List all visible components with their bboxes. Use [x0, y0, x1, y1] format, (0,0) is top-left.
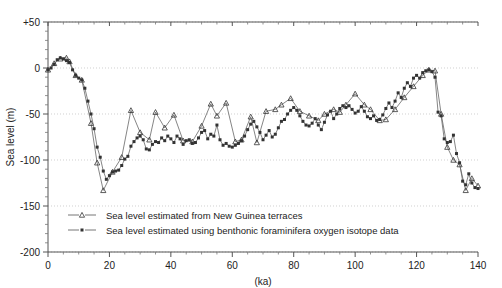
- data-point-square: [387, 101, 390, 104]
- data-point-square: [305, 124, 308, 127]
- data-point-square: [219, 138, 222, 141]
- data-point-square: [308, 124, 311, 127]
- data-point-square: [77, 77, 80, 80]
- data-point-square: [301, 120, 304, 123]
- data-point-square: [391, 106, 394, 109]
- data-point-square: [65, 59, 68, 62]
- data-point-square: [139, 135, 142, 138]
- data-point-square: [96, 146, 99, 149]
- data-point-square: [68, 61, 71, 64]
- data-point-square: [341, 104, 344, 107]
- x-tick-label: 20: [104, 260, 116, 271]
- data-point-square: [289, 109, 292, 112]
- data-point-square: [90, 113, 93, 116]
- y-tick-label: 0: [34, 63, 40, 74]
- data-point-square: [172, 141, 175, 144]
- data-point-square: [203, 129, 206, 132]
- data-point-square: [265, 134, 268, 137]
- data-point-square: [274, 133, 277, 136]
- data-point-square: [148, 148, 151, 151]
- data-point-square: [329, 110, 332, 113]
- data-point-square: [225, 142, 228, 145]
- sea-level-chart-figure: 020406080100120140+500-50-100-150-200(ka…: [0, 0, 502, 288]
- data-point-square: [277, 126, 280, 129]
- x-tick-label: 100: [347, 260, 364, 271]
- x-tick-label: 60: [227, 260, 239, 271]
- data-point-square: [461, 180, 464, 183]
- data-point-square: [111, 170, 114, 173]
- data-point-square: [326, 113, 329, 116]
- data-point-square: [332, 117, 335, 120]
- data-point-square: [381, 113, 384, 116]
- data-point-square: [421, 71, 424, 74]
- data-point-square: [206, 137, 209, 140]
- data-point-square: [360, 105, 363, 108]
- y-tick-label: -100: [20, 155, 40, 166]
- data-point-square: [437, 111, 440, 114]
- legend-item-2: Sea level estimated using benthonic fora…: [68, 225, 399, 236]
- data-point-square: [117, 169, 120, 172]
- data-point-square: [280, 120, 283, 123]
- data-point-square: [209, 133, 212, 136]
- data-point-square: [323, 121, 326, 124]
- data-point-square: [320, 128, 323, 131]
- data-point-square: [418, 77, 421, 80]
- data-point-square: [228, 145, 231, 148]
- data-point-square: [344, 106, 347, 109]
- data-point-square: [412, 77, 415, 80]
- data-point-square: [406, 81, 409, 84]
- data-point-square: [375, 119, 378, 122]
- data-point-square: [188, 138, 191, 141]
- data-point-square: [71, 68, 74, 71]
- data-point-square: [80, 78, 83, 81]
- data-point-square: [467, 172, 470, 175]
- data-point-square: [56, 58, 59, 61]
- x-tick-label: 0: [45, 260, 51, 271]
- data-point-square: [126, 155, 129, 158]
- data-point-square: [53, 63, 56, 66]
- legend-label: Sea level estimated from New Guinea terr…: [106, 210, 303, 221]
- y-tick-label: -150: [20, 201, 40, 212]
- data-point-square: [166, 135, 169, 138]
- data-point-square: [105, 178, 108, 181]
- data-point-square: [314, 117, 317, 120]
- data-point-square: [74, 74, 77, 77]
- data-point-square: [394, 100, 397, 103]
- data-point-square: [298, 114, 301, 117]
- data-point-square: [231, 146, 234, 149]
- data-point-square: [160, 136, 163, 139]
- data-point-square: [133, 140, 136, 143]
- data-point-square: [409, 85, 412, 88]
- data-point-square: [378, 118, 381, 121]
- data-point-square: [243, 135, 246, 138]
- data-point-square: [338, 107, 341, 110]
- data-point-square: [62, 57, 65, 60]
- data-point-square: [47, 68, 50, 71]
- x-tick-label: 40: [165, 260, 177, 271]
- data-point-square: [93, 127, 96, 130]
- data-point-square: [440, 114, 443, 117]
- y-axis-title: Sea level (m): [5, 108, 16, 167]
- data-point-square: [271, 136, 274, 139]
- data-point-square: [415, 74, 418, 77]
- data-point-square: [351, 108, 354, 111]
- data-point-square: [249, 123, 252, 126]
- data-point-square: [477, 187, 480, 190]
- data-point-square: [212, 135, 215, 138]
- data-point-square: [424, 69, 427, 72]
- data-point-square: [348, 104, 351, 107]
- data-point-square: [200, 131, 203, 134]
- data-point-square: [255, 125, 258, 128]
- data-point-square: [262, 138, 265, 141]
- data-point-square: [400, 96, 403, 99]
- data-point-square: [363, 110, 366, 113]
- data-point-square: [258, 131, 261, 134]
- data-point-square: [286, 113, 289, 116]
- data-point-square: [169, 137, 172, 140]
- legend-item-1: Sea level estimated from New Guinea terr…: [68, 210, 303, 221]
- data-point-square: [452, 134, 455, 137]
- data-point-square: [120, 164, 123, 167]
- data-series-layer: [45, 55, 480, 192]
- data-point-square: [443, 137, 446, 140]
- data-point-square: [470, 182, 473, 185]
